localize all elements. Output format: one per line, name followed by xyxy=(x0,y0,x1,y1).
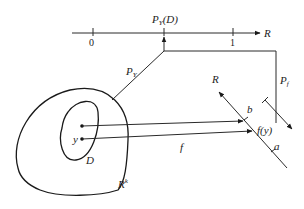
target-axis xyxy=(219,92,287,168)
a-label: a xyxy=(274,140,280,152)
axis-label-r: R xyxy=(263,27,271,39)
real-axis: 0 1 R PY(D) xyxy=(72,13,271,48)
f-arrow-y xyxy=(82,131,252,139)
diagram-canvas: 0 1 R PY(D) PY Pf Rk D y f R b f(y) xyxy=(0,0,304,209)
tick-label-1: 1 xyxy=(230,37,235,48)
f-arrow-upper xyxy=(82,121,243,126)
tick-label-0: 0 xyxy=(89,37,94,48)
rk-label: Rk xyxy=(117,177,129,190)
tick-b xyxy=(244,117,248,120)
y-label: y xyxy=(72,133,78,145)
projection-paths: PY Pf xyxy=(112,37,290,123)
py-diagonal xyxy=(112,51,164,100)
py-label: PY xyxy=(125,65,138,79)
target-r-label: R xyxy=(211,73,219,85)
d-label: D xyxy=(85,154,94,166)
pf-label: Pf xyxy=(279,74,290,88)
d-boundary xyxy=(61,101,99,160)
fy-label: f(y) xyxy=(257,124,273,137)
b-label: b xyxy=(247,103,253,115)
map-f: f xyxy=(82,121,252,153)
py-d-label: PY(D) xyxy=(151,13,178,27)
f-label: f xyxy=(180,141,185,153)
set-d: D y xyxy=(61,101,99,166)
